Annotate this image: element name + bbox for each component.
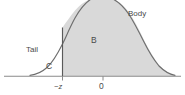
region-b-label: B bbox=[91, 36, 97, 45]
normal-distribution-figure: Tail C Body B −z 0 bbox=[0, 0, 185, 95]
axis-tick-label-neg-z: −z bbox=[54, 82, 62, 91]
region-c-label: C bbox=[46, 62, 52, 71]
body-label: Body bbox=[128, 10, 146, 18]
axis-tick-label-zero: 0 bbox=[99, 81, 104, 91]
tail-label: Tail bbox=[26, 46, 38, 54]
